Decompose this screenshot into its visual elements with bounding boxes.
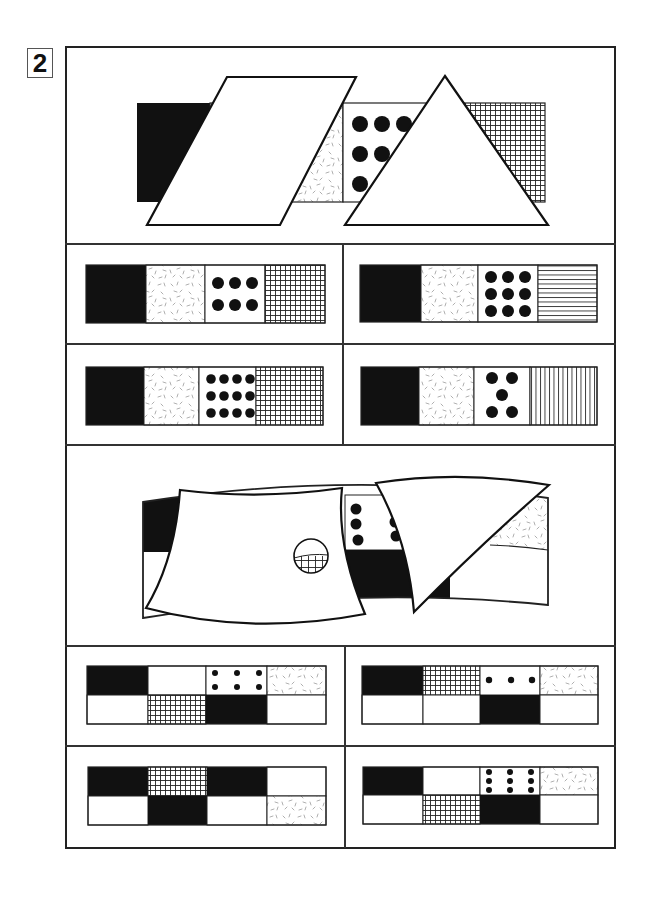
option-1b[interactable] xyxy=(360,265,597,322)
option-2d[interactable] xyxy=(363,767,598,824)
option-2c[interactable] xyxy=(88,767,326,825)
option-1a[interactable] xyxy=(86,265,325,323)
option-2b[interactable] xyxy=(362,666,598,724)
question-1-figure xyxy=(137,76,548,225)
puzzle-artwork xyxy=(0,0,648,899)
curved-panel-occluder xyxy=(146,488,365,624)
option-2a[interactable] xyxy=(87,666,326,724)
option-1d[interactable] xyxy=(361,367,597,425)
option-1c[interactable] xyxy=(86,367,323,425)
question-2-figure xyxy=(140,477,549,624)
